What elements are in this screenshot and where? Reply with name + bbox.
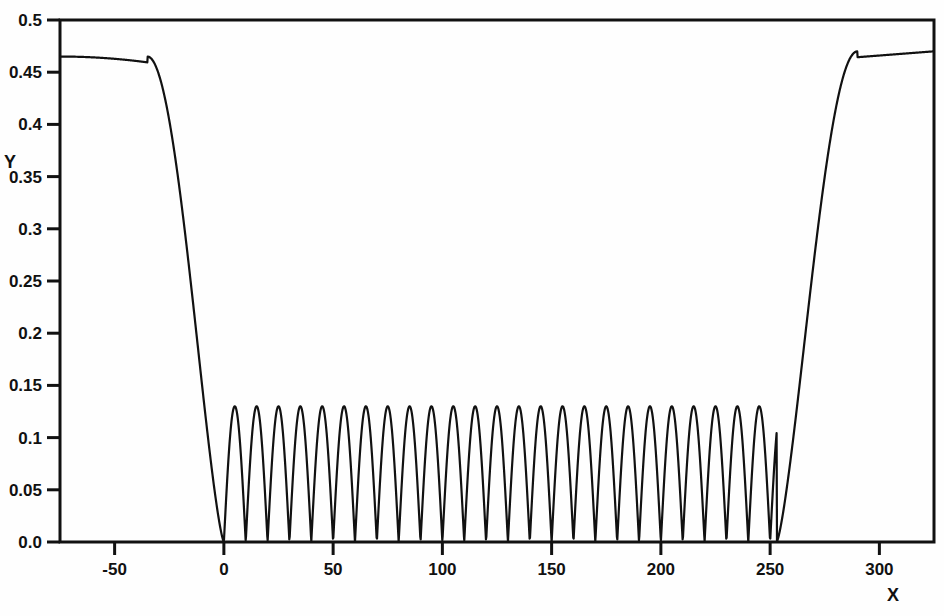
x-tick-label: -50 — [102, 560, 127, 579]
x-tick-label: 50 — [324, 560, 343, 579]
x-tick-label: 200 — [647, 560, 675, 579]
y-tick-label: 0.4 — [18, 115, 42, 134]
y-axis-title: Y — [4, 152, 16, 172]
y-axis-ticks: 0.00.050.10.150.20.250.30.350.40.450.5 — [9, 11, 60, 552]
x-axis-title: X — [887, 585, 899, 605]
data-series-curve — [60, 51, 934, 542]
chart-canvas: 0.00.050.10.150.20.250.30.350.40.450.5 -… — [0, 0, 944, 616]
y-tick-label: 0.3 — [18, 220, 42, 239]
x-tick-label: 0 — [219, 560, 228, 579]
y-tick-label: 0.45 — [9, 63, 42, 82]
y-tick-label: 0.15 — [9, 376, 42, 395]
y-tick-label: 0.0 — [18, 533, 42, 552]
chart-figure: 0.00.050.10.150.20.250.30.350.40.450.5 -… — [0, 0, 944, 616]
x-tick-label: 100 — [428, 560, 456, 579]
y-tick-label: 0.1 — [18, 429, 42, 448]
x-axis-ticks: -50050100150200250300 — [102, 542, 893, 579]
y-tick-label: 0.25 — [9, 272, 42, 291]
y-tick-label: 0.5 — [18, 11, 42, 30]
x-tick-label: 150 — [537, 560, 565, 579]
x-tick-label: 250 — [756, 560, 784, 579]
x-tick-label: 300 — [865, 560, 893, 579]
y-tick-label: 0.2 — [18, 324, 42, 343]
y-tick-label: 0.05 — [9, 481, 42, 500]
